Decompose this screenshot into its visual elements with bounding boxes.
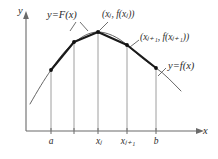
x-tick-label-a: a xyxy=(44,137,58,147)
node-marker-xj1 xyxy=(125,43,129,47)
y-axis-label: y xyxy=(18,6,23,17)
x-axis-label: x xyxy=(203,126,208,137)
leader-line-point-j1 xyxy=(130,40,139,47)
x-tick-label-b: b xyxy=(149,137,163,147)
function-label: y=f(x) xyxy=(168,61,194,72)
leader-line-Fx-right xyxy=(80,22,88,31)
axes-group xyxy=(23,11,204,134)
leader-line-Fx-left xyxy=(70,22,76,31)
node-marker-node2 xyxy=(72,40,76,44)
interpolant-label: y=F(x) xyxy=(47,10,77,21)
x-tick-label-xj-plus-1: xⱼ₊₁ xyxy=(113,137,143,147)
y-axis-arrowhead xyxy=(23,11,29,19)
node-label-xj: (xⱼ, f(xⱼ)) xyxy=(102,10,134,20)
node-marker-b xyxy=(154,66,158,70)
figure-svg xyxy=(0,0,218,159)
ordinate-lines-group xyxy=(51,32,156,131)
node-label-xj-plus-1: (xⱼ₊₁, f(xⱼ₊₁)) xyxy=(140,33,189,43)
node-marker-a xyxy=(49,68,53,72)
leader-line-point-j xyxy=(99,22,108,31)
x-tick-label-xj: xⱼ xyxy=(89,137,109,147)
figure-container: y x y=F(x) (xⱼ, f(xⱼ)) (xⱼ₊₁, f(xⱼ₊₁)) y… xyxy=(0,0,218,159)
leader-lines-group xyxy=(70,22,166,76)
